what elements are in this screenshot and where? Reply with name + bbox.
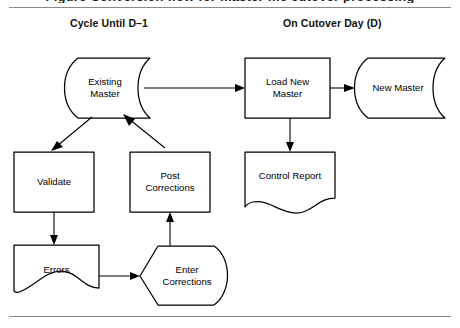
- edge-post-to-existing: [129, 119, 165, 148]
- edge-existing-to-load-arrowhead: [235, 84, 245, 92]
- node-control-report-shape: [245, 152, 335, 213]
- edge-errors-to-enter-arrowhead: [130, 272, 140, 280]
- edge-load-to-new-master-arrowhead: [344, 84, 355, 92]
- node-enter-corrections-shape: [140, 246, 228, 305]
- node-load-new-master-shape: [245, 58, 330, 118]
- node-validate-shape: [14, 152, 94, 212]
- flowchart-graphics: [0, 0, 460, 328]
- node-new-master-shape: [355, 58, 446, 118]
- node-errors-shape: [14, 245, 99, 292]
- edge-existing-to-validate: [57, 117, 92, 146]
- node-post-corrections-shape: [130, 152, 210, 212]
- edge-validate-to-errors-arrowhead: [50, 235, 58, 245]
- figure-canvas: Figure Conversion flow for master file c…: [0, 0, 460, 328]
- bottom-divider-rule: [9, 316, 451, 317]
- edge-load-to-control-report-arrowhead: [286, 142, 294, 152]
- node-existing-master-shape: [65, 58, 151, 118]
- edge-enter-to-post-arrowhead: [166, 212, 174, 222]
